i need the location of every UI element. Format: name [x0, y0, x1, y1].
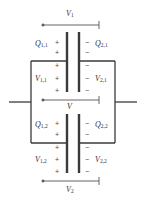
v2-arrow-dot [42, 180, 44, 182]
cap2-plus-sign: + [55, 156, 59, 163]
label-v: V [67, 103, 72, 111]
cap2-plus-sign: + [55, 131, 59, 138]
label-v21: V2,1 [95, 75, 107, 84]
label-v12: V1,2 [35, 156, 47, 165]
label-q21: Q2,1 [95, 40, 108, 49]
cap1-plus-sign: + [55, 49, 59, 56]
cap2-minus-sign: − [85, 156, 89, 163]
label-v2: V2 [66, 186, 74, 195]
cap2-minus-sign: − [85, 144, 89, 151]
label-v11: V1,1 [35, 75, 47, 84]
cap1-minus-sign: − [85, 87, 89, 94]
cap2-plus-sign: + [55, 144, 59, 151]
circuit-drawing [0, 0, 144, 208]
cap2-plus-sign: + [55, 168, 59, 175]
cap1-minus-sign: − [85, 39, 89, 46]
wires [9, 61, 137, 143]
label-q22: Q2,2 [95, 121, 108, 130]
parallel-capacitor-diagram: V1 V V2 Q1,1 Q2,1 V1,1 V2,1 Q1,2 Q2,2 V1… [0, 0, 144, 208]
v1-arrow-dot [42, 24, 44, 26]
label-q12: Q1,2 [35, 121, 48, 130]
cap1-plus-sign: + [55, 75, 59, 82]
label-v1: V1 [66, 10, 74, 19]
cap1-plus-sign: + [55, 39, 59, 46]
v-arrow-dot [42, 99, 44, 101]
label-q11: Q1,1 [35, 40, 48, 49]
cap2-minus-sign: − [85, 131, 89, 138]
cap1-plus-sign: + [55, 87, 59, 94]
cap2-plus-sign: + [55, 120, 59, 127]
cap1-plus-sign: + [55, 62, 59, 69]
cap2-minus-sign: − [85, 120, 89, 127]
cap1-minus-sign: − [85, 62, 89, 69]
cap1-minus-sign: − [85, 49, 89, 56]
cap2-minus-sign: − [85, 168, 89, 175]
cap1-minus-sign: − [85, 75, 89, 82]
label-v22: V2,2 [95, 156, 107, 165]
